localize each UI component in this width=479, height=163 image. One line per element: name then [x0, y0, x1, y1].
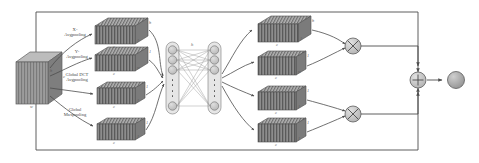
right-block-4-c: c — [275, 142, 277, 147]
operators-to-add-edges — [361, 46, 418, 114]
right-blocks-to-operators-edges — [307, 30, 345, 132]
left-block-3-w: 1 — [137, 98, 139, 103]
left-block-2-c: c — [113, 71, 115, 76]
multiply-top — [345, 38, 361, 54]
global-maxpooling-label: Global Maxpooling — [52, 108, 98, 118]
right-block-3-w: 1 — [298, 104, 300, 109]
output-feature — [448, 72, 465, 89]
global-dct-avgpooling-label: Global DCT Avgpooling — [52, 73, 102, 83]
mlp-to-right-blocks-edges — [222, 30, 254, 130]
left-block-4-h: 1 — [146, 120, 148, 125]
multiply-bottom — [345, 106, 361, 122]
right-block-1-h: h — [312, 18, 314, 23]
mlp-layer-1 — [166, 42, 179, 114]
right-block-2-c: c — [275, 75, 277, 80]
right-block-1-w: 1 — [300, 36, 302, 41]
right-block-1 — [258, 16, 311, 42]
diagram-canvas: X- Avgpooling Y- Avgpooling Global DCT A… — [0, 0, 479, 163]
left-block-2-h: 1 — [149, 49, 151, 54]
right-block-1-c: c — [276, 42, 278, 47]
add-node — [410, 72, 426, 88]
right-block-3-c: c — [275, 110, 277, 115]
y-avgpooling-label: Y- Avgpooling — [55, 50, 99, 60]
right-block-4-h: 1 — [307, 120, 309, 125]
mlp-connections — [177, 50, 210, 106]
left-block-2-w: w — [137, 65, 140, 70]
left-block-1-w: 1 — [137, 38, 139, 43]
left-block-3-c: c — [113, 104, 115, 109]
left-block-1 — [95, 18, 148, 44]
left-block-3-h: 1 — [146, 84, 148, 89]
input-dim-c: c — [63, 74, 65, 79]
left-block-1-h: h — [149, 20, 151, 25]
left-block-2 — [95, 47, 148, 71]
mlp-layer-1-ellipsis — [170, 79, 175, 97]
right-block-4-w: 1 — [298, 136, 300, 141]
mlp-layer-2-ellipsis — [212, 79, 217, 97]
right-block-2-w: w — [298, 69, 301, 74]
left-blocks-to-mlp-edges — [146, 30, 164, 130]
input-dim-w: w — [30, 104, 33, 109]
mlp-layer-2 — [208, 42, 221, 114]
x-avgpooling-label: X- Avgpooling — [53, 28, 97, 38]
left-block-4-c: c — [113, 140, 115, 145]
left-block-1-c: c — [113, 44, 115, 49]
left-block-4-w: 1 — [137, 134, 139, 139]
mlp-hidden-label: h — [191, 42, 193, 47]
input-dim-h: h — [50, 68, 52, 73]
right-block-2-h: 1 — [307, 53, 309, 58]
right-block-3-h: 1 — [307, 88, 309, 93]
